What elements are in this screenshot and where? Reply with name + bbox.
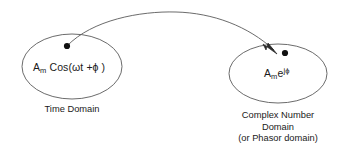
formula-superscript-right: jϕ	[283, 66, 289, 75]
caption-line: Complex Number	[228, 110, 328, 122]
formula-subscript-left: m	[40, 66, 46, 75]
caption-line: (or Phasor domain)	[228, 133, 328, 145]
caption-line: Time Domain	[22, 104, 122, 116]
time-domain-point-dot	[64, 43, 70, 49]
diagram-canvas: Am Cos(ωt +ϕ ) Amejϕ Time Domain Complex…	[0, 0, 338, 153]
time-domain-formula: Am Cos(ωt +ϕ )	[33, 61, 105, 73]
time-domain-caption: Time Domain	[22, 104, 122, 116]
complex-domain-formula: Amejϕ	[264, 67, 290, 79]
formula-subscript-right: m	[271, 72, 277, 81]
formula-rest-left: Cos(ωt +ϕ )	[46, 61, 105, 73]
phasor-transform-arrow-path	[67, 12, 274, 50]
complex-domain-caption: Complex Number Domain (or Phasor domain)	[228, 110, 328, 145]
complex-domain-point-dot	[282, 50, 288, 56]
caption-line: Domain	[228, 122, 328, 134]
